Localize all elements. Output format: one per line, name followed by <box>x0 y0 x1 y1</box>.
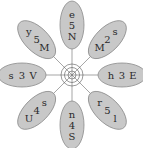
petal-char: 3 <box>119 70 125 81</box>
petal-char: 4 <box>69 120 75 131</box>
petal-char: 4 <box>33 105 39 116</box>
flower-diagram: e5Ns2ME3hl5rS4nU4ss3Vy5M <box>0 0 143 148</box>
petal-char: 2 <box>104 34 110 45</box>
petal-char: n <box>69 109 76 120</box>
petal-char: s <box>42 97 47 108</box>
petal-left: s3V <box>0 63 46 87</box>
petal-char: s <box>113 26 118 37</box>
petal-char: 5 <box>104 105 110 116</box>
petal-char: l <box>114 113 117 124</box>
petal-char: U <box>25 113 33 124</box>
petal-char: S <box>69 131 76 142</box>
petal-char: E <box>129 70 136 81</box>
petal-top: e5N <box>60 1 84 49</box>
petal-char: V <box>28 70 37 81</box>
petal-char: M <box>39 42 49 53</box>
petal-char: r <box>97 97 102 108</box>
petal-char: h <box>108 70 115 81</box>
petal-char: M <box>94 42 104 53</box>
petal-bottom: S4n <box>60 101 84 148</box>
petal-char: N <box>68 31 77 42</box>
petal-char: e <box>69 9 75 20</box>
petal-char: 3 <box>19 70 25 81</box>
petal-char: s <box>8 70 13 81</box>
petal-right: E3h <box>98 63 143 87</box>
petal-char: 5 <box>69 20 75 31</box>
petal-char: y <box>25 26 32 37</box>
